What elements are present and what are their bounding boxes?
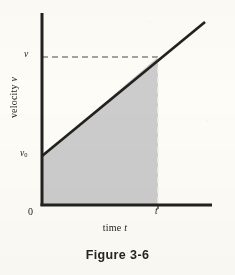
y-axis-title: velocity v: [8, 63, 19, 133]
y-tick-label-v: v: [24, 49, 28, 59]
origin-label: 0: [28, 206, 33, 217]
x-axis-title-symbol: t: [124, 222, 127, 233]
figure-3-6: velocity v time t v v0 0 t Figure 3-6: [0, 0, 235, 275]
x-tick-label-t: t: [155, 206, 158, 216]
x-axis-title: time t: [72, 222, 158, 233]
figure-caption: Figure 3-6: [0, 248, 235, 262]
displacement-shaded-area: [42, 57, 158, 205]
y-axis-title-symbol: v: [8, 77, 19, 82]
y-tick-label-v0-subscript: 0: [24, 151, 27, 158]
x-axis-title-text: time: [103, 222, 124, 233]
y-tick-label-v0: v0: [20, 148, 27, 158]
y-axis-title-text: velocity: [8, 82, 19, 119]
velocity-time-plot: [0, 0, 235, 275]
